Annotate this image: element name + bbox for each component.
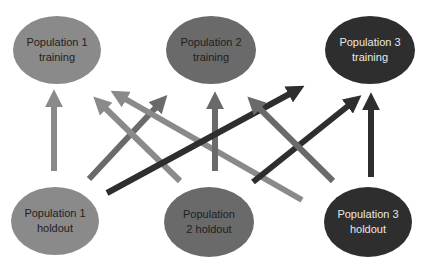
node-label: Population 3 training [339, 35, 400, 65]
node-population-3-training: Population 3 training [325, 16, 415, 84]
node-population-2-holdout: Population 2 holdout [164, 187, 254, 257]
node-population-2-training: Population 2 training [166, 16, 256, 84]
node-label: Population 3 holdout [337, 207, 398, 237]
node-population-3-holdout: Population 3 holdout [324, 187, 412, 257]
node-label: Population 2 training [180, 35, 241, 65]
node-label: Population 1 holdout [24, 206, 85, 236]
node-label: Population 1 training [26, 35, 87, 65]
node-population-1-training: Population 1 training [13, 16, 101, 84]
node-population-1-holdout: Population 1 holdout [11, 187, 99, 255]
arrow-pop2-holdout-to-pop1-training [101, 104, 180, 181]
node-label: Population 2 holdout [183, 207, 235, 237]
